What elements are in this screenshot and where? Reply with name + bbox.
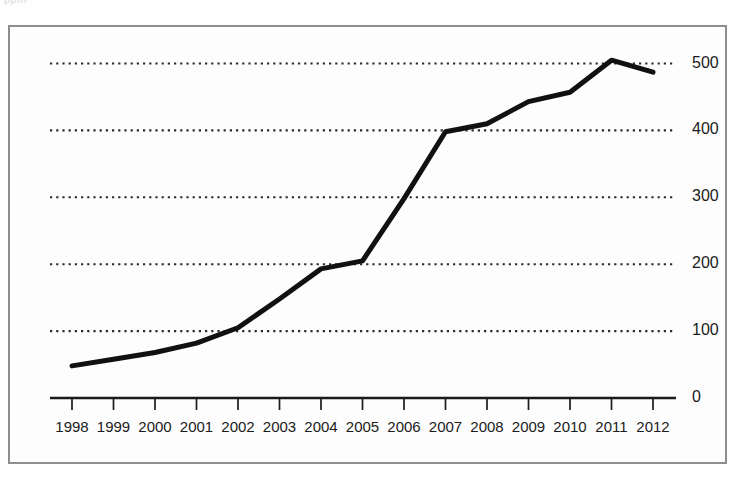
data-series-group [72,60,653,366]
x-axis-label-1999: 1999 [97,418,130,435]
x-axis-label-2010: 2010 [553,418,586,435]
y-axis-label-400: 400 [692,120,719,138]
y-axis-label-100: 100 [692,321,719,339]
x-axis-label-2008: 2008 [470,418,503,435]
y-axis-label-200: 200 [692,254,719,272]
y-axis-label-300: 300 [692,187,719,205]
y-axis-label-500: 500 [692,54,719,72]
x-axis-label-2011: 2011 [595,418,627,435]
line-chart-figure [0,0,737,477]
x-axis-label-2002: 2002 [221,418,254,435]
x-axis-label-2007: 2007 [429,418,462,435]
chart-page: ppm 0100200300400500 1998199920002001200… [0,0,737,477]
x-axis-label-2001: 2001 [180,418,213,435]
x-axis-ticks-group [72,399,653,410]
x-axis-label-2000: 2000 [138,418,171,435]
x-axis-label-2004: 2004 [304,418,337,435]
y-axis-label-0: 0 [692,388,701,406]
x-axis-label-2009: 2009 [512,418,545,435]
data-series-line [72,60,653,366]
x-axis-label-2006: 2006 [387,418,420,435]
chart-svg [0,0,737,477]
x-axis-label-2005: 2005 [346,418,379,435]
x-axis-label-1998: 1998 [55,418,88,435]
x-axis-label-2012: 2012 [636,418,669,435]
gridlines-group [50,64,676,332]
x-axis-label-2003: 2003 [263,418,296,435]
